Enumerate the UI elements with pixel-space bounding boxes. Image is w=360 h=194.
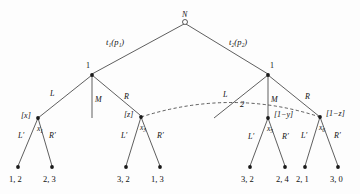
node-x1-subscript: x1 — [37, 125, 43, 134]
payoff-2: 2, 3 — [43, 175, 56, 184]
leaf-dot-3 — [124, 165, 128, 169]
payoff-6: 2, 4 — [276, 175, 289, 184]
edge-x6-Lprime — [305, 117, 320, 166]
leaf-dot-8 — [336, 165, 340, 169]
left-information-set-label: 1 — [86, 62, 90, 70]
edge-label-x6-Lprime: L′ — [301, 132, 307, 140]
edge-left-L — [38, 75, 92, 118]
game-tree-figure: N t₁(p₁) t₂(p₂) 1 1 L M R L M R 2 [x] [z… — [0, 0, 360, 194]
branch-label-left-M: M — [95, 96, 102, 104]
root-node-circle — [183, 20, 188, 25]
bracket-1-minus-z-label: [1−z] — [326, 110, 345, 118]
leaf-dot-2 — [50, 165, 54, 169]
bracket-1-minus-y-label: [1−y] — [274, 111, 293, 119]
node-x5-index: 5 — [270, 128, 273, 134]
payoff-3: 3, 2 — [117, 175, 130, 184]
left-top-edge-label: t₁(p₁) — [106, 38, 124, 47]
payoff-5: 3, 2 — [241, 175, 254, 184]
node-x5-subscript: x5 — [267, 125, 273, 134]
branch-label-left-R: R — [124, 93, 129, 101]
edge-label-x6-Rprime: R′ — [334, 132, 341, 140]
bracket-x-label: [x] — [21, 112, 31, 120]
payoff-8: 3, 0 — [330, 175, 343, 184]
edge-label-x5-Rprime: R′ — [282, 133, 289, 141]
edge-x3-Lprime — [126, 117, 141, 166]
edge-root-to-right-set — [186, 24, 268, 74]
right-set-node — [266, 73, 270, 77]
node-x3-index: 3 — [143, 127, 146, 133]
leaf-dot-6 — [283, 165, 287, 169]
right-top-edge-label: t₂(p₂) — [229, 38, 247, 47]
right-information-set-label: 1 — [270, 62, 274, 70]
node-x1-index: 1 — [40, 128, 43, 134]
node-x6-index: 6 — [322, 127, 325, 133]
edge-label-x5-Lprime: L′ — [248, 133, 254, 141]
edge-x5-Lprime — [250, 118, 268, 166]
branch-label-left-L: L — [50, 90, 54, 98]
bracket-z-label: [z] — [124, 111, 133, 119]
branch-label-right-M: M — [271, 96, 278, 104]
leaf-dot-7 — [303, 165, 307, 169]
edge-x1-Lprime — [18, 118, 38, 166]
payoff-4: 1, 3 — [151, 175, 164, 184]
leaf-dot-1 — [16, 165, 20, 169]
edge-label-x3-Rprime: R′ — [157, 132, 164, 140]
node-x3-subscript: x3 — [140, 124, 146, 133]
branch-label-right-L: L — [223, 91, 227, 99]
branch-label-right-R: R — [305, 93, 310, 101]
node-x6-subscript: x6 — [319, 124, 325, 133]
payoff-7: 2, 1 — [296, 175, 309, 184]
edge-label-x3-Lprime: L′ — [121, 132, 127, 140]
deviation-label: 2 — [240, 100, 244, 109]
edge-root-to-left-set — [92, 24, 184, 74]
payoff-1: 1, 2 — [9, 175, 22, 184]
leaf-dot-4 — [158, 165, 162, 169]
left-set-node — [90, 73, 94, 77]
edge-label-x1-Rprime: R′ — [49, 132, 56, 140]
leaf-dot-5 — [248, 165, 252, 169]
edge-label-x1-Lprime: L′ — [18, 132, 24, 140]
root-node-label: N — [182, 11, 187, 19]
